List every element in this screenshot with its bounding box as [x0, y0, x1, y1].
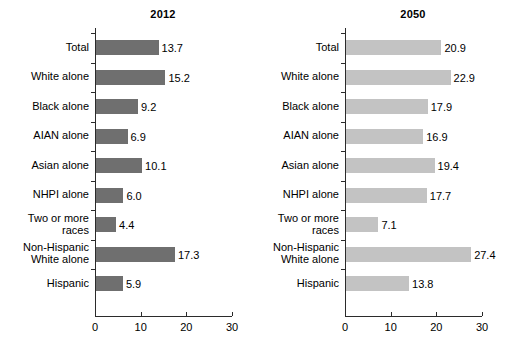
- bar: [96, 70, 165, 85]
- category-label: Non-HispanicWhite alone: [2, 241, 89, 265]
- category-label-line: Total: [2, 41, 89, 53]
- bar: [346, 70, 451, 85]
- x-axis-tick: [186, 312, 187, 316]
- bar-value-label: 7.1: [381, 219, 396, 231]
- category-label: NHPI alone: [2, 188, 89, 200]
- bar: [346, 40, 441, 55]
- plot-area-2050: 0102030Total20.9White alone22.9Black alo…: [258, 28, 516, 328]
- bar: [96, 276, 123, 291]
- category-label: Asian alone: [260, 159, 339, 171]
- bar: [96, 188, 123, 203]
- x-axis-tick: [232, 312, 233, 316]
- bar: [346, 99, 428, 114]
- x-axis-tick-label: 0: [330, 321, 360, 333]
- bar: [346, 188, 427, 203]
- chart-title-2012: 2012: [0, 8, 258, 20]
- y-axis-tick: [91, 33, 95, 34]
- category-label: Non-HispanicWhite alone: [260, 241, 339, 265]
- y-axis-tick: [341, 151, 345, 152]
- bar: [346, 129, 423, 144]
- bar: [96, 158, 142, 173]
- bar-value-label: 6.9: [131, 131, 146, 143]
- y-axis-tick: [341, 63, 345, 64]
- category-label: Total: [260, 41, 339, 53]
- category-label: Asian alone: [2, 159, 89, 171]
- bar-value-label: 22.9: [454, 72, 475, 84]
- x-axis-tick-label: 30: [467, 321, 497, 333]
- bar: [346, 276, 409, 291]
- category-label: White alone: [260, 70, 339, 82]
- bar-value-label: 27.4: [474, 249, 495, 261]
- category-label: Black alone: [2, 100, 89, 112]
- category-label: Total: [2, 41, 89, 53]
- x-axis-tick-label: 10: [376, 321, 406, 333]
- bar-value-label: 9.2: [141, 101, 156, 113]
- bar: [346, 247, 471, 262]
- category-label: White alone: [2, 70, 89, 82]
- category-label-line: Asian alone: [2, 159, 89, 171]
- x-axis-tick: [482, 312, 483, 316]
- category-label-line: Total: [260, 41, 339, 53]
- category-label-line: Black alone: [260, 100, 339, 112]
- bar-value-label: 4.4: [119, 219, 134, 231]
- category-label: Hispanic: [260, 277, 339, 289]
- bar-value-label: 16.9: [426, 131, 447, 143]
- bar-value-label: 17.3: [178, 249, 199, 261]
- category-label-line: Non-Hispanic: [2, 241, 89, 253]
- y-axis-tick: [91, 63, 95, 64]
- bar-value-label: 5.9: [126, 278, 141, 290]
- y-axis-tick: [341, 181, 345, 182]
- category-label-line: races: [2, 224, 89, 236]
- figure-root: 2012 0102030Total13.7White alone15.2Blac…: [0, 0, 516, 361]
- bar-value-label: 17.9: [431, 101, 452, 113]
- category-label-line: White alone: [260, 70, 339, 82]
- category-label: Black alone: [260, 100, 339, 112]
- y-axis-tick: [341, 33, 345, 34]
- bar: [96, 99, 138, 114]
- y-axis-tick: [91, 210, 95, 211]
- category-label-line: AIAN alone: [2, 129, 89, 141]
- y-axis-tick: [341, 269, 345, 270]
- category-label-line: Black alone: [2, 100, 89, 112]
- category-label-line: AIAN alone: [260, 129, 339, 141]
- chart-title-2050: 2050: [258, 8, 516, 20]
- category-label: NHPI alone: [260, 188, 339, 200]
- y-axis-tick: [341, 92, 345, 93]
- category-label: AIAN alone: [2, 129, 89, 141]
- bar-value-label: 13.8: [412, 278, 433, 290]
- bar-value-label: 20.9: [444, 42, 465, 54]
- bar-value-label: 19.4: [438, 160, 459, 172]
- bar-value-label: 10.1: [145, 160, 166, 172]
- x-axis-line: [95, 316, 232, 317]
- category-label-line: Hispanic: [260, 277, 339, 289]
- x-axis-tick-label: 20: [421, 321, 451, 333]
- category-label-line: Two or more: [2, 212, 89, 224]
- bar: [96, 217, 116, 232]
- y-axis-tick: [91, 269, 95, 270]
- y-axis-tick: [341, 122, 345, 123]
- bar-value-label: 13.7: [162, 42, 183, 54]
- category-label-line: races: [260, 224, 339, 236]
- bar: [346, 217, 378, 232]
- bar: [96, 247, 175, 262]
- x-axis-tick-label: 20: [171, 321, 201, 333]
- category-label: Two or moreraces: [2, 212, 89, 236]
- y-axis-tick: [341, 240, 345, 241]
- x-axis-tick-label: 10: [126, 321, 156, 333]
- bar: [96, 129, 128, 144]
- plot-area-2012: 0102030Total13.7White alone15.2Black alo…: [0, 28, 258, 328]
- bar-value-label: 15.2: [168, 72, 189, 84]
- category-label-line: Asian alone: [260, 159, 339, 171]
- x-axis-tick: [345, 312, 346, 316]
- bar-value-label: 6.0: [126, 190, 141, 202]
- bar: [96, 40, 159, 55]
- category-label-line: Two or more: [260, 212, 339, 224]
- y-axis-tick: [341, 210, 345, 211]
- x-axis-tick-label: 30: [217, 321, 247, 333]
- x-axis-tick: [391, 312, 392, 316]
- category-label-line: White alone: [2, 253, 89, 265]
- category-label-line: Non-Hispanic: [260, 241, 339, 253]
- chart-panel-2012: 2012 0102030Total13.7White alone15.2Blac…: [0, 0, 258, 361]
- category-label-line: NHPI alone: [2, 188, 89, 200]
- category-label-line: White alone: [2, 70, 89, 82]
